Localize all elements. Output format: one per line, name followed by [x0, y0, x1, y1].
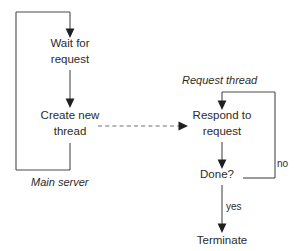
edge-wait-to-create — [66, 70, 75, 108]
arrow-head-into-respond-to-request — [179, 122, 189, 131]
node-respond-to-request-line-1: Respond to — [193, 109, 252, 121]
node-done-label: Done? — [200, 168, 234, 180]
node-create-new-thread-line-2: thread — [54, 125, 87, 137]
arrow-head-into-create-new-thread — [66, 99, 75, 109]
node-done: Done? — [200, 168, 234, 180]
node-respond-to-request-line-2: request — [203, 125, 242, 137]
edge-spawn-thread-dashed — [98, 122, 188, 131]
flowchart-canvas: Wait for request Create new thread Respo… — [0, 0, 305, 251]
node-create-new-thread-line-1: Create new — [41, 109, 101, 121]
node-wait-for-request: Wait for request — [50, 37, 90, 65]
node-wait-for-request-line-1: Wait for — [50, 37, 89, 49]
node-terminate-label: Terminate — [197, 234, 248, 246]
main-server-loop-path — [16, 12, 74, 170]
edge-label-no: no — [277, 158, 289, 169]
node-wait-for-request-line-2: request — [51, 53, 90, 65]
edge-label-yes: yes — [226, 201, 242, 212]
node-create-new-thread: Create new thread — [41, 109, 101, 137]
group-label-request-thread: Request thread — [182, 74, 258, 86]
edge-respond-to-done — [218, 142, 227, 169]
group-label-main-server: Main server — [31, 176, 90, 188]
node-respond-to-request: Respond to request — [193, 109, 252, 137]
flowchart-svg: Wait for request Create new thread Respo… — [0, 0, 305, 251]
node-terminate: Terminate — [197, 234, 248, 246]
arrow-head-into-terminate — [218, 224, 227, 234]
